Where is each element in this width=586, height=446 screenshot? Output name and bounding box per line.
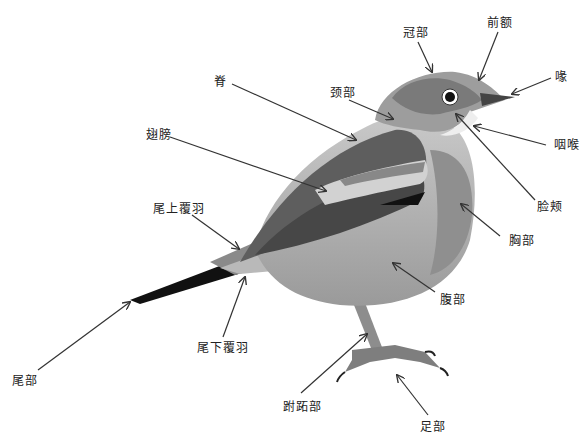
label-nape: 颈部 (330, 86, 356, 100)
label-undertail-coverts: 尾下覆羽 (197, 341, 249, 355)
body (240, 115, 475, 306)
label-throat: 咽喉 (554, 138, 580, 152)
legs (337, 295, 448, 382)
label-bill: 喙 (555, 70, 568, 84)
head (375, 72, 515, 136)
label-breast: 胸部 (509, 234, 535, 248)
label-cheek: 脸颊 (537, 200, 563, 214)
label-crown: 冠部 (403, 26, 429, 40)
bird-illustration (0, 0, 586, 446)
label-belly: 腹部 (440, 293, 466, 307)
label-foot: 足部 (420, 420, 446, 434)
label-tail: 尾部 (12, 374, 38, 388)
label-tarsus: 跗跖部 (283, 400, 322, 414)
label-back: 脊 (214, 75, 227, 89)
label-wing: 翅膀 (146, 128, 172, 142)
label-uppertail-coverts: 尾上覆羽 (153, 202, 205, 216)
label-forehead: 前额 (487, 16, 513, 30)
